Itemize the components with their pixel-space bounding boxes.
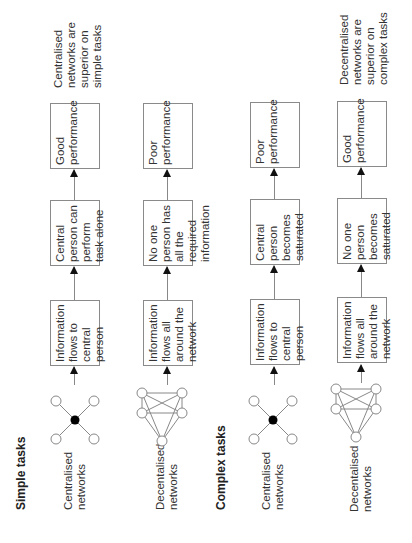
flow-arrow [74,170,75,200]
flow-arrow [167,367,168,385]
decentralised-network-icon [330,387,386,443]
section-title-simple: Simple tasks [14,437,28,510]
step2-box: No one person has all the required infor… [143,200,193,266]
network-label: Decentalised networks [154,444,180,510]
section-title-complex: Complex tasks [214,425,228,510]
network-label: Decentalised networks [348,446,374,512]
step2-box: No one person becomes saturated [337,198,387,264]
step2-box: Central person can perform task alone [50,200,100,266]
flow-arrow [74,367,75,385]
step1-box: Information flows to central person [250,299,300,365]
network-label: Centralised networks [260,452,286,510]
flow-arrow [361,265,362,297]
flow-arrow [74,267,75,300]
flow-arrow [274,266,275,299]
outcome-box: Poor performance [143,103,193,169]
flow-arrow [361,365,362,383]
network-label: Centralised networks [62,452,88,510]
step1-box: Information flows all around the network [337,297,387,363]
decentralised-network-icon [136,391,192,447]
flow-arrow [274,169,275,199]
step2-box: Central person becomes saturated [250,199,300,265]
step1-box: Information flows all around the network [143,300,193,366]
conclusion-text: Centralised networks are superior on sim… [52,22,104,88]
flow-arrow [274,367,275,385]
outcome-box: Good performance [337,101,387,167]
centralised-network-icon [248,395,298,445]
flow-arrow [167,267,168,300]
conclusion-text: Decentralised networks are superior on c… [338,12,390,85]
outcome-box: Poor performance [250,102,300,168]
centralised-network-icon [50,395,100,445]
outcome-box: Good performance [50,103,100,169]
step1-box: Information flows to central person [50,300,100,366]
flow-arrow [167,170,168,200]
flow-arrow [361,168,362,198]
diagram-canvas: Simple tasks Complex tasks Centralised n… [0,0,412,543]
